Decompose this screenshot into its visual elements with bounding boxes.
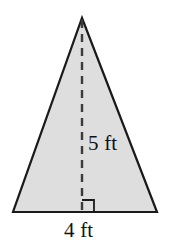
geometry-figure: 5 ft 4 ft (0, 0, 169, 247)
height-dimension-label: 5 ft (88, 133, 117, 154)
triangle-drawing (0, 0, 169, 247)
base-dimension-label: 4 ft (64, 220, 93, 241)
triangle-shape (13, 18, 157, 212)
